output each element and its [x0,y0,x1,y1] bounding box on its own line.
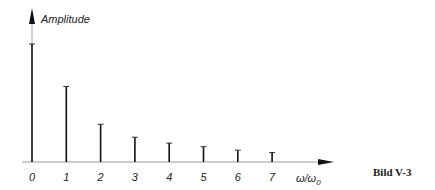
x-tick-label: 0 [29,171,36,183]
x-tick-label: 6 [235,171,242,183]
x-tick-label: 5 [200,171,207,183]
x-tick-label: 1 [63,171,69,183]
y-axis-arrow-icon [29,8,35,24]
x-axis-arrow-icon [318,159,334,165]
x-tick-label: 2 [97,171,104,183]
spectral-lines [29,44,275,162]
x-tick-label: 4 [166,171,172,183]
x-tick-labels: 01234567 [29,171,276,183]
x-axis-label: ω/ω0 [296,172,321,187]
x-tick-label: 3 [132,171,139,183]
spectrum-chart: 01234567 Amplitude ω/ω0 [0,0,435,190]
y-axis-label: Amplitude [40,13,90,25]
x-tick-label: 7 [269,171,276,183]
figure-caption: Bild V-3 [373,166,411,178]
